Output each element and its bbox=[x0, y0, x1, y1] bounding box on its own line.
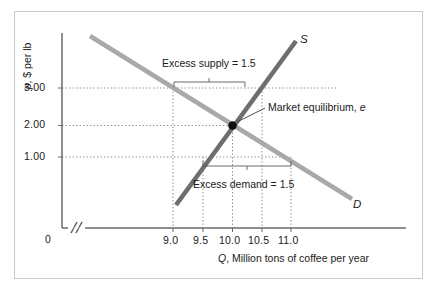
chart-plot-area bbox=[0, 0, 437, 291]
demand-curve-label: D bbox=[353, 198, 361, 210]
axis-break-icon bbox=[68, 222, 85, 233]
figure-container: p, $ per lb Q, Million tons of coffee pe… bbox=[0, 0, 437, 291]
y-axis-title-rest: , $ per lb bbox=[21, 43, 33, 84]
y-tick-label-200: 2.00 bbox=[24, 118, 45, 130]
equilibrium-point-marker bbox=[228, 121, 237, 130]
x-tick-label-90: 9.0 bbox=[163, 234, 178, 246]
equilibrium-label: Market equilibrium, e bbox=[268, 101, 365, 113]
excess-demand-label: Excess demand = 1.5 bbox=[193, 178, 294, 190]
excess-demand-brace bbox=[203, 161, 291, 170]
origin-label: 0 bbox=[45, 233, 51, 245]
x-tick-label-105: 10.5 bbox=[248, 234, 269, 246]
x-tick-label-95: 9.5 bbox=[193, 234, 208, 246]
x-tick-label-110: 11.0 bbox=[278, 234, 298, 246]
x-axis-title: Q, Million tons of coffee per year bbox=[218, 252, 369, 264]
x-tick-label-100: 10.0 bbox=[219, 234, 240, 246]
supply-curve-label: S bbox=[300, 33, 308, 45]
y-axis-title: p, $ per lb bbox=[21, 19, 33, 113]
y-tick-label-300: 3.00 bbox=[24, 81, 45, 93]
excess-supply-label: Excess supply = 1.5 bbox=[162, 57, 256, 69]
equilibrium-label-text: Market equilibrium, bbox=[268, 101, 360, 113]
y-tick-label-100: 1.00 bbox=[24, 150, 45, 162]
equilibrium-label-symbol: e bbox=[360, 101, 366, 113]
x-axis-title-rest: , Million tons of coffee per year bbox=[226, 252, 369, 264]
x-axis-symbol: Q bbox=[218, 252, 226, 264]
excess-supply-brace bbox=[174, 78, 245, 87]
